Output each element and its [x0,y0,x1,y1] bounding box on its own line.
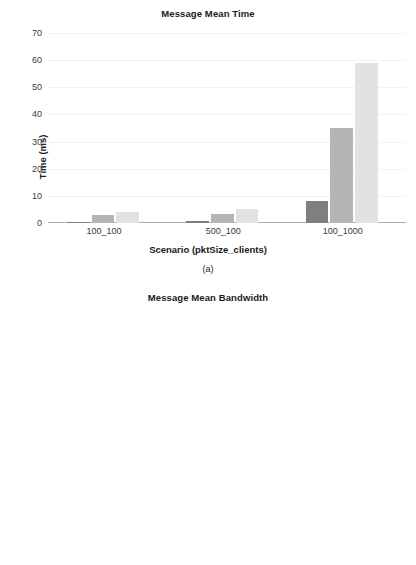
chart-a-x-axis-label: Scenario (pktSize_clients) [0,244,416,255]
bar-group [306,33,380,223]
bar-qos_1-100_1000 [330,128,353,223]
bar-group [186,33,260,223]
bar-qos_0-100_1000 [306,201,329,223]
chart-panel-b: Message Mean Bandwidth QoS_0 QoS_1 QoS_2… [0,280,416,565]
bar-qos_2-100_1000 [355,63,378,223]
chart-b-title: Message Mean Bandwidth [0,292,416,303]
bar-qos_2-500_100 [236,209,259,223]
x-axis-tick-label: 500_100 [206,226,241,236]
chart-a-title: Message Mean Time [0,8,416,19]
bar-qos_0-500_100 [186,221,209,223]
y-axis-tick-label: 40 [32,109,42,119]
x-axis-tick-label: 100_100 [87,226,122,236]
y-axis-tick-label: 60 [32,55,42,65]
bar-qos_2-100_100 [116,212,139,223]
bar-group [67,33,141,223]
bar-qos_1-500_100 [211,214,234,224]
chart-a-plot-area: Time (ms) 010203040506070 [48,33,406,223]
figure-two-bar-charts: Message Mean Time QoS_0 QoS_1 QoS_2 Time… [0,0,416,565]
y-axis-tick-label: 0 [37,218,42,228]
x-axis-tick-label: 100_1000 [323,226,363,236]
y-axis-tick-label: 30 [32,137,42,147]
bar-qos_1-100_100 [92,215,115,223]
y-axis-tick-label: 20 [32,164,42,174]
chart-panel-a: Message Mean Time QoS_0 QoS_1 QoS_2 Time… [0,0,416,280]
y-axis-tick-label: 10 [32,191,42,201]
y-axis-tick-label: 50 [32,82,42,92]
chart-a-caption: (a) [0,264,416,274]
bar-qos_0-100_100 [67,222,90,223]
y-axis-tick-label: 70 [32,28,42,38]
